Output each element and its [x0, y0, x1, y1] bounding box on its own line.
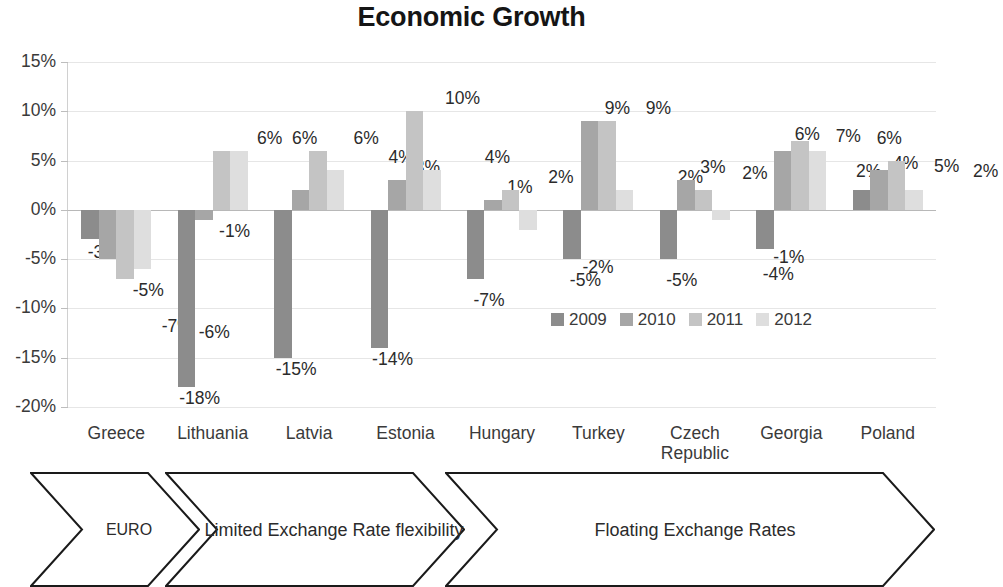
bar-group: -3%-5%-7%-6%: [68, 62, 164, 407]
bar[interactable]: [905, 190, 923, 210]
chart-legend: 2009201020112012: [551, 311, 825, 328]
bar[interactable]: [134, 210, 152, 269]
legend-swatch-icon: [551, 313, 564, 326]
bar[interactable]: [853, 190, 871, 210]
bar-slot: 3%: [677, 62, 695, 407]
bar-slot: 10%: [406, 62, 424, 407]
bar[interactable]: [230, 151, 248, 210]
legend-label: 2009: [569, 311, 607, 328]
y-axis-tick-label: 0%: [0, 201, 56, 219]
bar-group: -15%2%6%4%: [261, 62, 357, 407]
bar[interactable]: [616, 190, 634, 210]
bar-slot: 2%: [853, 62, 871, 407]
bar[interactable]: [371, 210, 389, 348]
legend-item[interactable]: 2011: [689, 311, 744, 328]
bar-slot: -15%: [274, 62, 292, 407]
bar[interactable]: [178, 210, 196, 387]
bar[interactable]: [791, 141, 809, 210]
bar-group: -5%3%2%-1%: [647, 62, 743, 407]
y-axis-tick-label: 5%: [0, 152, 56, 170]
y-axis-tick-label: -15%: [0, 349, 56, 367]
bar-slot: 6%: [213, 62, 231, 407]
bar[interactable]: [81, 210, 99, 240]
category-label: Georgia: [743, 424, 839, 444]
bar[interactable]: [677, 180, 695, 210]
y-tick-mark: [61, 210, 68, 211]
bar-slot: -4%: [756, 62, 774, 407]
bar-slot: 2%: [292, 62, 310, 407]
bar[interactable]: [423, 170, 441, 209]
bar-group: -5%9%9%2%: [550, 62, 646, 407]
legend-swatch-icon: [756, 313, 769, 326]
bar[interactable]: [519, 210, 537, 230]
bar[interactable]: [870, 170, 888, 209]
bar[interactable]: [292, 190, 310, 210]
bar[interactable]: [888, 161, 906, 210]
bar[interactable]: [195, 210, 213, 220]
legend-label: 2010: [638, 311, 676, 328]
bar[interactable]: [406, 111, 424, 210]
bar[interactable]: [484, 200, 502, 210]
bar-slot: -7%: [467, 62, 485, 407]
y-axis-tick-label: 10%: [0, 102, 56, 120]
category-label: Hungary: [454, 424, 550, 444]
bar-slot: -14%: [371, 62, 389, 407]
bar[interactable]: [660, 210, 678, 259]
category-label: Greece: [68, 424, 164, 444]
bar[interactable]: [213, 151, 231, 210]
legend-item[interactable]: 2012: [756, 311, 812, 328]
bar-slot: -5%: [660, 62, 678, 407]
bar[interactable]: [774, 151, 792, 210]
y-axis-tick-label: -5%: [0, 250, 56, 268]
bar[interactable]: [116, 210, 134, 279]
bar-slot: 2%: [502, 62, 520, 407]
bar-group: -14%3%10%4%: [357, 62, 453, 407]
bar-slot: -18%: [178, 62, 196, 407]
bar[interactable]: [581, 121, 599, 210]
bar[interactable]: [756, 210, 774, 249]
banner-chevron: Floating Exchange Rates: [445, 472, 935, 587]
category-label: Turkey: [550, 424, 646, 444]
bar-slot: -7%: [116, 62, 134, 407]
y-tick-mark: [61, 111, 68, 112]
bar-slot: 4%: [327, 62, 345, 407]
bar-group: -4%6%7%6%: [743, 62, 839, 407]
y-tick-mark: [61, 308, 68, 309]
bar[interactable]: [712, 210, 730, 220]
legend-item[interactable]: 2010: [620, 311, 676, 328]
legend-item[interactable]: 2009: [551, 311, 607, 328]
bar-slot: 9%: [598, 62, 616, 407]
bar[interactable]: [467, 210, 485, 279]
bar[interactable]: [99, 210, 117, 259]
bar-slot: 9%: [581, 62, 599, 407]
bar[interactable]: [598, 121, 616, 210]
bar-slot: -6%: [134, 62, 152, 407]
bar-slot: 2%: [695, 62, 713, 407]
bar[interactable]: [327, 170, 345, 209]
bar-slot: 7%: [791, 62, 809, 407]
bar[interactable]: [695, 190, 713, 210]
bar[interactable]: [563, 210, 581, 259]
y-tick-mark: [61, 161, 68, 162]
bar-slot: 4%: [870, 62, 888, 407]
bar-group: -7%1%2%-2%: [454, 62, 550, 407]
bar[interactable]: [388, 180, 406, 210]
bar-slot: -3%: [81, 62, 99, 407]
plot-area: -3%-5%-7%-6%-18%-1%6%6%-15%2%6%4%-14%3%1…: [68, 62, 936, 407]
bar[interactable]: [502, 190, 520, 210]
legend-label: 2011: [707, 311, 744, 328]
bar-slot: 5%: [888, 62, 906, 407]
legend-swatch-icon: [689, 313, 702, 326]
bar[interactable]: [274, 210, 292, 358]
bar-slot: 2%: [616, 62, 634, 407]
bar-slot: -2%: [519, 62, 537, 407]
category-label: Estonia: [357, 424, 453, 444]
bar-slot: -1%: [195, 62, 213, 407]
y-tick-mark: [61, 407, 68, 408]
y-axis-tick-label: -20%: [0, 398, 56, 416]
y-tick-mark: [61, 358, 68, 359]
y-tick-mark: [61, 259, 68, 260]
bar[interactable]: [809, 151, 827, 210]
bar[interactable]: [309, 151, 327, 210]
